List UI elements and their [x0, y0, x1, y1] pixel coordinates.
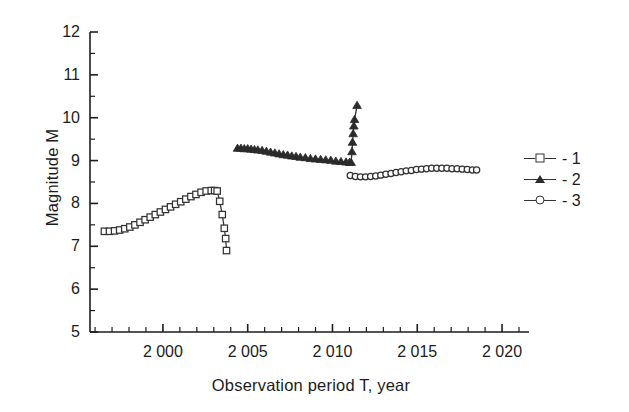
legend-label: - 1: [556, 150, 581, 168]
legend-label: - 2: [556, 171, 581, 189]
chart-figure: Magnitude M Observation period T, year 5…: [0, 0, 629, 412]
legend-item-1[interactable]: - 1: [524, 148, 624, 169]
series-2-marker: [348, 148, 357, 155]
series-1-marker: [221, 225, 227, 231]
x-tick-label: 2 010: [287, 344, 377, 360]
filled-triangle-icon: [535, 175, 545, 183]
series-1-marker: [222, 235, 228, 241]
legend-marker-open-square-icon: [524, 150, 556, 168]
x-tick-label: 2 000: [118, 344, 208, 360]
series-1-marker: [214, 188, 220, 194]
y-tick-label: 8: [40, 195, 80, 211]
series-1-marker: [223, 247, 229, 253]
legend-marker-open-circle-icon: [524, 192, 556, 210]
series-2-marker: [353, 101, 362, 108]
y-tick-label: 5: [40, 324, 80, 340]
y-axis-title: Magnitude M: [43, 48, 62, 308]
y-tick-label: 11: [40, 67, 80, 83]
series-1-marker: [217, 198, 223, 204]
series-1-marker: [219, 211, 225, 217]
legend-item-2[interactable]: - 2: [524, 169, 624, 190]
series-2-marker: [348, 138, 357, 145]
legend-item-3[interactable]: - 3: [524, 190, 624, 211]
series-2-marker: [349, 130, 358, 137]
y-tick-label: 9: [40, 153, 80, 169]
y-tick-label: 10: [40, 110, 80, 126]
x-tick-label: 2 020: [457, 344, 547, 360]
y-tick-label: 12: [40, 24, 80, 40]
series-2-marker: [350, 115, 359, 122]
x-axis-title: Observation period T, year: [96, 376, 526, 395]
open-circle-icon: [536, 195, 545, 204]
y-tick-label: 6: [40, 281, 80, 297]
open-square-icon: [536, 153, 545, 162]
series-1-line: [104, 191, 226, 251]
x-tick-label: 2 015: [372, 344, 462, 360]
legend-marker-filled-triangle-icon: [524, 171, 556, 189]
x-tick-label: 2 005: [203, 344, 293, 360]
legend: - 1- 2- 3: [524, 148, 624, 211]
y-tick-label: 7: [40, 238, 80, 254]
legend-label: - 3: [556, 192, 581, 210]
series-3-marker: [474, 167, 480, 173]
